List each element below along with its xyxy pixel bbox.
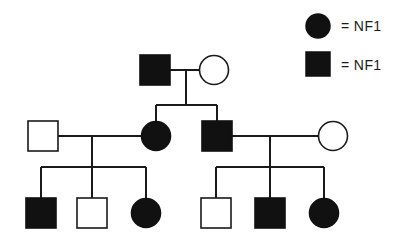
individual-II-2-affected-female (142, 122, 171, 151)
pedigree-chart-figure: = NF1 = NF1 (0, 0, 406, 242)
individual-I-2-unaffected-female (200, 56, 229, 85)
individual-III-3-affected-female (132, 199, 161, 228)
individual-II-4-unaffected-female (319, 122, 348, 151)
filled-square-icon (306, 52, 330, 76)
individual-III-5-affected-male (255, 198, 285, 228)
pedigree-canvas: = NF1 = NF1 (0, 0, 406, 242)
individual-III-2-unaffected-male (77, 198, 107, 228)
filled-circle-icon (306, 14, 330, 38)
individual-II-1-unaffected-male (28, 121, 58, 151)
individual-III-4-unaffected-male (201, 198, 231, 228)
individual-III-6-affected-female (310, 199, 339, 228)
individual-I-1-affected-male (140, 55, 170, 85)
legend-label-affected-male: = NF1 (341, 57, 382, 73)
individual-III-1-affected-male (26, 198, 56, 228)
individual-II-3-affected-male (202, 121, 232, 151)
legend-label-affected-female: = NF1 (341, 18, 382, 34)
